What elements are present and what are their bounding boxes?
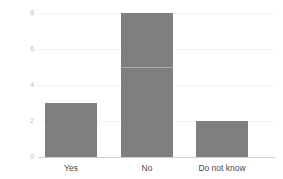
bars-layer — [38, 13, 275, 157]
gridline-5-overlay — [121, 67, 173, 68]
y-tick-label-0: 0 — [6, 154, 34, 161]
x-axis-line — [38, 157, 275, 158]
bar-do-not-know[interactable] — [196, 121, 248, 157]
y-axis-tick-labels: 8 6 4 2 0 — [0, 13, 34, 157]
bar-yes[interactable] — [45, 103, 97, 157]
y-tick-label-6: 6 — [6, 46, 34, 53]
x-tick-label-do-not-know: Do not know — [198, 161, 245, 175]
y-tick-label-2: 2 — [6, 118, 34, 125]
bar-chart: 8 6 4 2 0 Yes No Do not know — [0, 0, 283, 179]
x-tick-label-yes: Yes — [64, 161, 78, 175]
x-axis-tick-labels: Yes No Do not know — [0, 161, 283, 179]
x-tick-label-no: No — [142, 161, 153, 175]
y-tick-label-4: 4 — [6, 82, 34, 89]
bar-no[interactable] — [121, 13, 173, 157]
y-tick-label-8: 8 — [6, 10, 34, 17]
